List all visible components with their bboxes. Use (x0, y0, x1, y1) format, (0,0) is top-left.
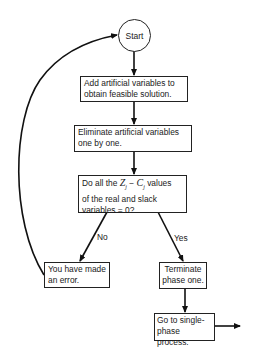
node-text: one by one. (78, 138, 188, 149)
node-text: Terminate (161, 264, 205, 275)
node-text: an error. (48, 275, 106, 286)
node-text: phase one. (161, 275, 205, 286)
add-artificial-variables-box: Add artificial variables to obtain feasi… (80, 76, 188, 102)
node-text: variables = 0? (82, 205, 183, 217)
single-phase-process-box: Go to single- phase process. (154, 313, 215, 341)
node-text: You have made (48, 264, 106, 275)
terminate-phase-one-box: Terminate phase one. (159, 262, 207, 289)
node-text: Go to single- (157, 315, 212, 326)
node-text: Do all the Zj − Cj values (82, 177, 183, 194)
error-box: You have made an error. (44, 262, 110, 288)
decision-box: Do all the Zj − Cj values of the real an… (78, 175, 187, 213)
node-text: Add artificial variables to (84, 78, 184, 89)
start-label: Start (126, 31, 144, 41)
node-text: obtain feasible solution. (84, 89, 184, 100)
node-text: of the real and slack (82, 194, 183, 206)
no-label: No (97, 232, 108, 242)
node-text: phase process. (157, 326, 212, 348)
yes-label: Yes (174, 233, 188, 243)
node-text: Eliminate artificial variables (78, 127, 188, 138)
start-node: Start (118, 19, 151, 52)
eliminate-artificial-variables-box: Eliminate artificial variables one by on… (74, 125, 192, 152)
